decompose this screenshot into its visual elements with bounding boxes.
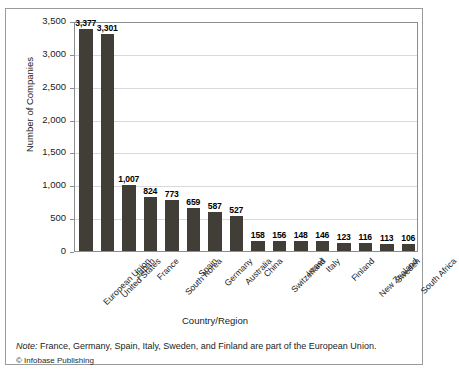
bar-value-label: 659	[186, 197, 200, 207]
bar-column[interactable]: 148	[294, 21, 308, 251]
bar[interactable]	[187, 208, 201, 251]
bar-value-label: 156	[272, 230, 286, 240]
note-prefix: Note:	[16, 341, 38, 351]
bar-column[interactable]: 116	[359, 21, 373, 251]
bar-value-label: 3,377	[75, 18, 96, 28]
bar-value-label: 824	[143, 186, 157, 196]
x-axis-title: Country/Region	[6, 315, 424, 326]
bar-column[interactable]: 123	[337, 21, 351, 251]
bar-column[interactable]: 158	[251, 21, 265, 251]
bar-value-label: 3,301	[97, 23, 118, 33]
x-axis-tick-label: South Africa	[419, 256, 459, 296]
bar-value-label: 587	[208, 201, 222, 211]
bar-column[interactable]: 1,007	[122, 21, 136, 251]
y-axis-tick-label: 500	[8, 212, 66, 223]
bar[interactable]	[144, 197, 158, 251]
y-axis-tick-mark	[70, 252, 74, 253]
x-axis-tick-label: Finland	[349, 256, 376, 283]
bar[interactable]	[337, 243, 351, 251]
bar-column[interactable]: 587	[208, 21, 222, 251]
bar-value-label: 106	[401, 233, 415, 243]
bar-value-label: 146	[315, 230, 329, 240]
bar-column[interactable]: 106	[402, 21, 416, 251]
bar-value-label: 148	[294, 230, 308, 240]
bar-value-label: 113	[380, 233, 394, 243]
y-axis-tick-label: 2,000	[8, 114, 66, 125]
bar[interactable]	[79, 29, 93, 251]
y-axis-tick-label: 2,500	[8, 81, 66, 92]
bar-column[interactable]: 773	[165, 21, 179, 251]
bar-column[interactable]: 659	[187, 21, 201, 251]
bar-value-label: 123	[337, 232, 351, 242]
bar[interactable]	[294, 241, 308, 251]
bar-column[interactable]: 3,377	[79, 21, 93, 251]
bar[interactable]	[165, 200, 179, 251]
y-axis-tick-label: 0	[8, 245, 66, 256]
y-axis-tick-label: 3,500	[8, 15, 66, 26]
bar[interactable]	[402, 244, 416, 251]
bar[interactable]	[380, 244, 394, 251]
bar-column[interactable]: 146	[316, 21, 330, 251]
bar[interactable]	[208, 212, 222, 251]
bar-value-label: 116	[358, 232, 372, 242]
bar[interactable]	[359, 243, 373, 251]
bar-column[interactable]: 156	[273, 21, 287, 251]
y-axis-tick-label: 1,000	[8, 179, 66, 190]
bar-value-label: 773	[165, 189, 179, 199]
bar[interactable]	[230, 216, 244, 251]
bar[interactable]	[273, 241, 287, 251]
bar-column[interactable]: 527	[230, 21, 244, 251]
bar[interactable]	[122, 185, 136, 251]
chart-figure: Number of Companies 05001,0001,5002,0002…	[5, 8, 423, 365]
y-axis-tick-label: 3,000	[8, 48, 66, 59]
bar-column[interactable]: 113	[380, 21, 394, 251]
bar[interactable]	[101, 34, 115, 251]
chart-note: Note: France, Germany, Spain, Italy, Swe…	[16, 341, 376, 351]
y-axis-tick-label: 1,500	[8, 146, 66, 157]
x-axis-tick-label: Italy	[324, 256, 342, 274]
bar-value-label: 158	[251, 230, 265, 240]
bar-value-label: 527	[229, 205, 243, 215]
bar[interactable]	[316, 241, 330, 251]
bar[interactable]	[251, 241, 265, 251]
bar-column[interactable]: 824	[144, 21, 158, 251]
plot-area: 3,3773,3011,0078247736595875271581561481…	[74, 22, 418, 252]
note-text: France, Germany, Spain, Italy, Sweden, a…	[40, 341, 376, 351]
bar-value-label: 1,007	[118, 174, 139, 184]
bar-column[interactable]: 3,301	[101, 21, 115, 251]
copyright-credit: © Infobase Publishing	[16, 356, 94, 365]
